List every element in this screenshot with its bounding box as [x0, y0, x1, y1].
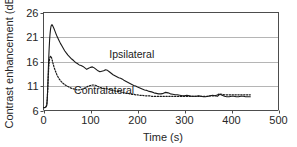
x-tick-200: 200: [128, 114, 146, 126]
ipsilateral-label: Ipsilateral: [109, 48, 154, 60]
chart-figure: 611162126 0100200300400500 Contrast enha…: [0, 0, 297, 147]
y-tick-16: 16: [26, 56, 38, 68]
y-tick-6: 6: [32, 105, 38, 117]
y-tick-26: 26: [26, 7, 38, 19]
x-tick-400: 400: [222, 114, 240, 126]
x-axis-title: Time (s): [143, 131, 183, 143]
y-axis-title: Contrast enhancement (dB): [3, 0, 15, 129]
x-tick-300: 300: [175, 114, 193, 126]
x-tick-100: 100: [81, 114, 99, 126]
contralateral-label: Contralateral: [74, 84, 134, 96]
x-tick-500: 500: [269, 114, 287, 126]
contrast-enhancement-line-chart: 611162126 0100200300400500 Contrast enha…: [0, 0, 297, 147]
y-tick-21: 21: [26, 31, 38, 43]
x-tick-0: 0: [40, 114, 46, 126]
y-tick-11: 11: [27, 80, 38, 92]
